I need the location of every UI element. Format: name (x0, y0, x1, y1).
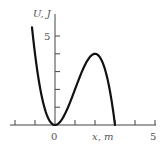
y-axis (55, 14, 60, 125)
y-axis-ticks (55, 36, 60, 107)
x-tick-label-5: 5 (150, 131, 156, 142)
y-axis-label: U, J (33, 8, 52, 19)
x-axis-label: x, m (92, 131, 113, 142)
x-tick-label-0: 0 (51, 131, 57, 142)
potential-energy-chart: U, J 5 0 x, m 5 (0, 0, 164, 148)
y-tick-label-5: 5 (44, 31, 50, 42)
x-axis (10, 120, 156, 125)
x-axis-ticks (15, 120, 155, 125)
